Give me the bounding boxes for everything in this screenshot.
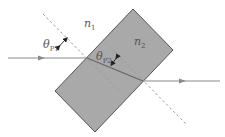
slab-medium-n2 bbox=[55, 9, 173, 132]
angle-arrow-theta-p1-icon bbox=[59, 39, 67, 47]
transmitted-ray-arrow-icon bbox=[179, 79, 186, 84]
label-n1: n1 bbox=[84, 17, 96, 32]
refraction-diagram: n1 n2 θP1 θP2 bbox=[0, 0, 225, 137]
label-theta-p1: θP1 bbox=[43, 38, 59, 53]
incident-ray-arrow-icon bbox=[38, 56, 45, 61]
